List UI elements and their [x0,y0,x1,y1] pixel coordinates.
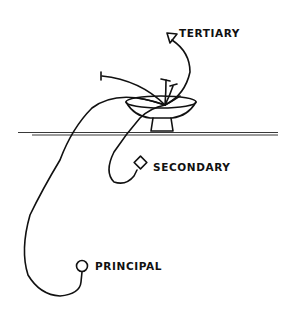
label-principal: PRINCIPAL [95,260,162,272]
diamond-icon [134,156,147,169]
triangle-icon [167,33,177,43]
circle-icon [77,261,88,272]
root-system-diagram: TERTIARY SECONDARY PRINCIPAL [0,0,285,313]
shoot-lines [101,72,180,105]
label-secondary: SECONDARY [153,161,231,173]
label-tertiary: TERTIARY [179,27,240,39]
ground-line [18,133,278,136]
